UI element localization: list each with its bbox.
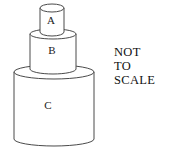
note-line-1: NOT	[114, 45, 172, 59]
not-to-scale-note: NOT TO SCALE	[114, 45, 172, 87]
cylinder-a-top-ellipse	[40, 4, 64, 12]
note-line-3: SCALE	[114, 73, 172, 87]
cylinder-b-label: B	[48, 44, 55, 56]
cylinder-c: C	[14, 65, 94, 146]
cylinder-a-label: A	[47, 14, 55, 26]
cylinder-c-label: C	[44, 99, 51, 111]
note-line-2: TO	[114, 59, 172, 73]
cylinder-a: A	[40, 4, 64, 36]
cylinder-c-body	[14, 72, 94, 146]
diagram-canvas: C B A NOT TO SCALE	[0, 0, 175, 148]
